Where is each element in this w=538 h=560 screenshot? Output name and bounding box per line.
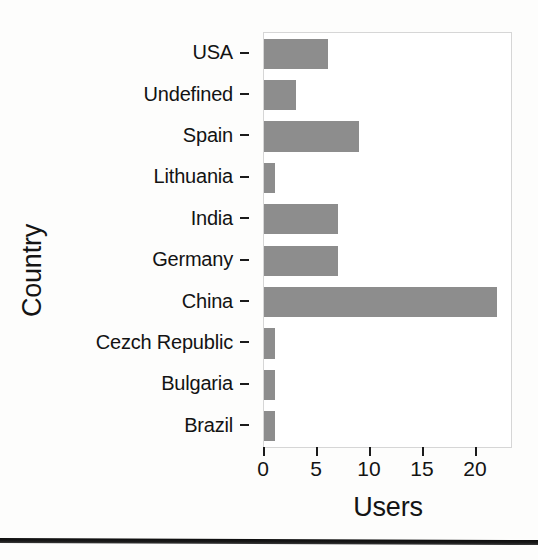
plot-panel: [263, 32, 512, 448]
bar: [264, 411, 275, 441]
y-tick-dash-icon: [240, 52, 249, 54]
y-tick-spain: Spain: [183, 115, 252, 156]
y-tick-label: Undefined: [144, 83, 233, 106]
y-tick-india: India: [191, 198, 252, 239]
bar: [264, 163, 275, 193]
y-tick-dash-icon: [240, 259, 249, 261]
y-tick-dash-icon: [240, 300, 249, 302]
bar: [264, 370, 275, 400]
y-tick-china: China: [182, 280, 252, 321]
y-tick-label: USA: [192, 41, 233, 64]
x-tick-mark: [369, 447, 371, 456]
x-tick-label: 10: [357, 457, 380, 481]
y-tick-cezch-republic: Cezch Republic: [96, 322, 252, 363]
x-tick-label: 15: [410, 457, 433, 481]
bar: [264, 80, 296, 110]
bar: [264, 39, 328, 69]
y-tick-label: Brazil: [184, 414, 233, 437]
y-tick-label: China: [182, 290, 233, 313]
page-rule-divider: [0, 538, 538, 545]
x-tick-mark: [316, 447, 318, 456]
x-tick-mark: [475, 447, 477, 456]
y-tick-dash-icon: [240, 217, 249, 219]
y-tick-dash-icon: [240, 93, 249, 95]
y-tick-dash-icon: [240, 176, 249, 178]
x-axis-tick-labels: 05101520: [263, 457, 513, 487]
x-axis-ticks: [263, 447, 513, 457]
x-tick-label: 0: [257, 457, 269, 481]
bar: [264, 204, 338, 234]
y-tick-dash-icon: [240, 341, 249, 343]
y-tick-usa: USA: [192, 32, 252, 73]
y-tick-undefined: Undefined: [144, 73, 252, 114]
y-tick-lithuania: Lithuania: [154, 156, 252, 197]
y-axis-tick-labels: USA Undefined Spain Lithuania India Germ…: [30, 32, 252, 446]
y-tick-dash-icon: [240, 134, 249, 136]
y-tick-label: Bulgaria: [161, 372, 233, 395]
y-tick-label: Cezch Republic: [96, 331, 233, 354]
x-tick-label: 20: [463, 457, 486, 481]
x-tick-mark: [263, 447, 265, 456]
bar-series: [264, 33, 511, 447]
y-tick-label: Spain: [183, 124, 233, 147]
bar: [264, 287, 497, 317]
y-tick-brazil: Brazil: [184, 405, 252, 446]
bar: [264, 328, 275, 358]
y-tick-label: Lithuania: [154, 165, 233, 188]
x-axis-title: Users: [263, 492, 513, 523]
bar-chart-figure: Country USA Undefined Spain Lithuania In…: [0, 0, 538, 560]
x-tick-mark: [422, 447, 424, 456]
y-tick-label: Germany: [152, 248, 233, 271]
x-tick-label: 5: [310, 457, 322, 481]
bar: [264, 121, 359, 151]
y-tick-bulgaria: Bulgaria: [161, 363, 252, 404]
y-tick-dash-icon: [240, 383, 249, 385]
y-tick-label: India: [191, 207, 233, 230]
y-tick-dash-icon: [240, 424, 249, 426]
bar: [264, 246, 338, 276]
y-tick-germany: Germany: [152, 239, 252, 280]
